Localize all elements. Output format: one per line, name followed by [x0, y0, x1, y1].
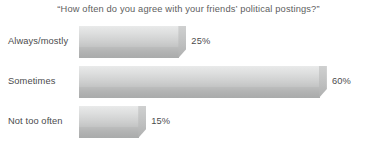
bar-sometimes — [79, 66, 320, 98]
bar-base — [79, 87, 320, 98]
chart-row: Not too often 15% — [0, 106, 377, 146]
value-label: 15% — [151, 116, 170, 126]
bar-end-cap — [319, 66, 327, 98]
bar-face — [79, 106, 139, 127]
bar-not-too-often — [79, 106, 139, 138]
category-label: Not too often — [8, 116, 63, 126]
bar-base — [79, 127, 139, 138]
bar-base — [79, 47, 179, 58]
bar-chart: “How often do you agree with your friend… — [0, 0, 377, 146]
value-label: 60% — [332, 76, 351, 86]
chart-row: Sometimes 60% — [0, 66, 377, 106]
bar-always-mostly — [79, 26, 179, 58]
category-label: Always/mostly — [8, 36, 68, 46]
chart-row: Always/mostly 25% — [0, 26, 377, 66]
bar-end-cap — [178, 26, 186, 58]
bar-end-cap — [138, 106, 146, 138]
bar-face — [79, 66, 320, 87]
bar-face — [79, 26, 179, 47]
value-label: 25% — [191, 36, 210, 46]
chart-title: “How often do you agree with your friend… — [0, 4, 377, 14]
category-label: Sometimes — [8, 76, 55, 86]
